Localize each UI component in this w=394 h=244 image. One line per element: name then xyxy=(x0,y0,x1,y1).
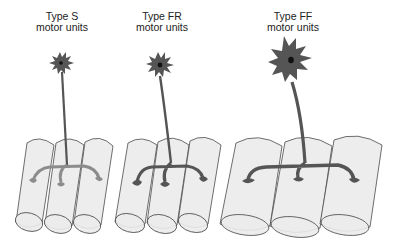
type-s-nucleus xyxy=(59,61,63,65)
type-fr-nucleus xyxy=(158,63,163,68)
type-fr-muscle-fibers xyxy=(113,137,221,236)
type-ff-muscle-fibers xyxy=(220,136,382,240)
motor-units-diagram xyxy=(0,0,394,244)
type-ff-nucleus xyxy=(288,57,294,64)
type-s-muscle-fibers xyxy=(13,138,113,236)
